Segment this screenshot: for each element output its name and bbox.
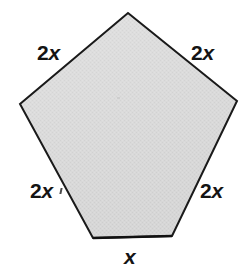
scan-dust-mark [117, 97, 120, 99]
side-label-top-right-variable: x [202, 41, 213, 64]
side-label-top-left-coefficient: 2 [37, 41, 48, 64]
side-label-bottom-variable: x [124, 245, 135, 268]
side-label-top-left: 2x [37, 42, 60, 63]
side-label-bottom-left-coefficient: 2 [30, 179, 41, 202]
side-label-bottom-right-coefficient: 2 [200, 179, 211, 202]
side-label-bottom-left: 2x [30, 180, 53, 201]
side-label-top-right: 2x [191, 42, 214, 63]
side-label-top-right-coefficient: 2 [191, 41, 202, 64]
geometry-figure: 2x 2x 2x 2x x [0, 0, 249, 272]
side-label-bottom-right-variable: x [211, 179, 222, 202]
side-label-bottom: x [124, 246, 135, 267]
side-label-bottom-right: 2x [200, 180, 223, 201]
side-label-top-left-variable: x [48, 41, 59, 64]
side-label-bottom-left-variable: x [41, 179, 52, 202]
